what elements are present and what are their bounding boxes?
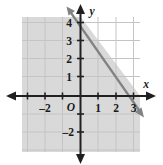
y-tick-label-2: 2 xyxy=(66,53,72,65)
y-tick-label-1: 1 xyxy=(66,71,72,83)
y-axis-arrow-down xyxy=(76,154,85,164)
y-tick-label-3: 3 xyxy=(66,35,72,47)
x-axis-arrow-right xyxy=(146,92,156,101)
origin-label: O xyxy=(67,101,75,113)
x-tick-label-1: 1 xyxy=(95,102,101,114)
x-axis-arrow-left xyxy=(6,92,16,101)
y-tick-label-neg2: –2 xyxy=(62,126,75,138)
coordinate-plane-svg: –2 1 2 3 4 3 2 1 –2 O x y xyxy=(0,0,163,165)
x-tick-label-2: 2 xyxy=(113,102,119,114)
x-tick-label-3: 3 xyxy=(131,102,137,114)
x-axis-label: x xyxy=(142,78,149,90)
y-axis-label: y xyxy=(87,5,95,18)
y-tick-label-4: 4 xyxy=(66,17,72,29)
x-tick-label-neg2: –2 xyxy=(38,102,51,114)
inequality-graph: –2 1 2 3 4 3 2 1 –2 O x y xyxy=(0,0,163,165)
y-axis-arrow-up xyxy=(76,4,85,14)
